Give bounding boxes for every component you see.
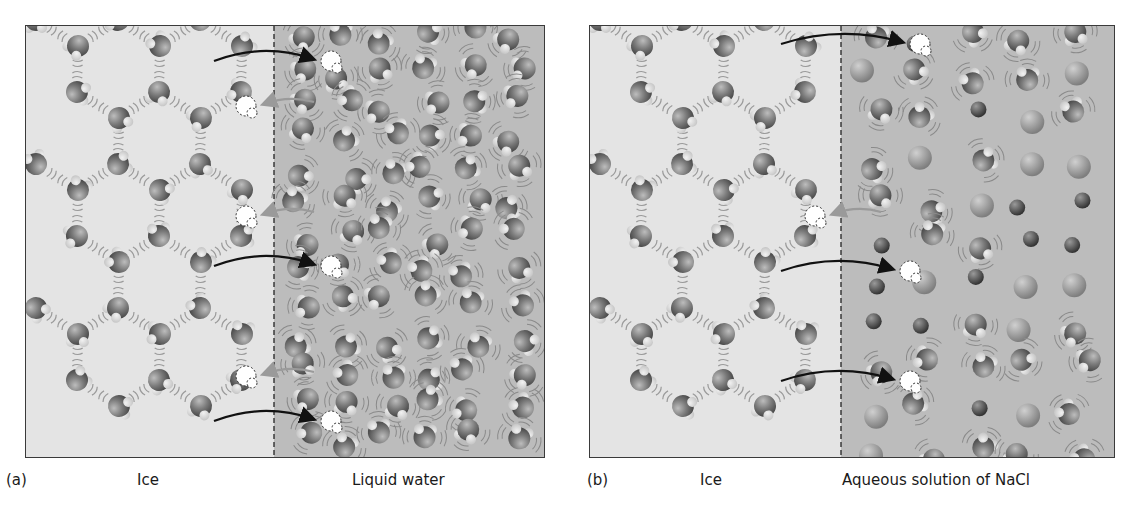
panel-b-illustration [590,26,1115,458]
panel-a-ice-label: Ice [137,471,159,489]
chloride-ion [970,193,994,217]
chloride-ion [1062,273,1086,297]
chloride-ion [1065,61,1089,85]
sodium-ion [1009,200,1025,216]
panel-b-solution-label: Aqueous solution of NaCl [842,471,1030,489]
panel-b-ice-nacl-solution [589,25,1115,458]
panel-a-ice-liquid-water [25,25,545,458]
chloride-ion [1014,275,1038,299]
panel-a-illustration [26,26,545,458]
sodium-ion [970,101,986,117]
panel-a-label: (a) [6,471,27,489]
sodium-ion [869,279,885,295]
chloride-ion [1020,110,1044,134]
sodium-ion [972,400,988,416]
sodium-ion [1074,193,1090,209]
chloride-ion [908,146,932,170]
panel-b-label: (b) [587,471,608,489]
sodium-ion [913,318,929,334]
chloride-ion [1016,403,1040,427]
sodium-ion [874,238,890,254]
chloride-ion [864,405,888,429]
chloride-ion [1020,152,1044,176]
chloride-ion [850,59,874,83]
panel-b-ice-label: Ice [700,471,722,489]
panel-a-liquid-label: Liquid water [352,471,445,489]
sodium-ion [1064,237,1080,253]
chloride-ion [1067,155,1091,179]
sodium-ion [866,313,882,329]
sodium-ion [1023,231,1039,247]
sodium-ion [968,269,984,285]
